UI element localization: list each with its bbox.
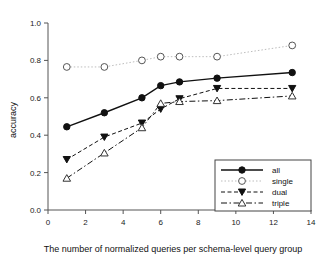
x-tick-label-1: 2	[83, 218, 88, 227]
data-point-single-0	[63, 64, 70, 71]
line-chart: 0.00.20.40.60.81.0 02468101214 allsingle…	[0, 0, 334, 261]
data-point-dual-6	[289, 85, 296, 91]
data-point-single-4	[176, 53, 183, 60]
x-tick-label-4: 8	[196, 218, 201, 227]
x-axis-ticks: 02468101214	[46, 210, 316, 227]
series-single	[63, 42, 295, 70]
data-point-all-5	[214, 75, 220, 81]
x-tick-label-7: 14	[307, 218, 316, 227]
y-tick-label-3: 0.6	[30, 94, 42, 103]
data-point-all-3	[158, 82, 164, 88]
data-point-single-6	[289, 42, 296, 49]
y-tick-label-0: 0.0	[30, 206, 42, 215]
x-tick-label-6: 12	[269, 218, 278, 227]
data-point-triple-1	[101, 149, 109, 156]
data-point-all-2	[139, 95, 145, 101]
y-tick-label-5: 1.0	[30, 19, 42, 28]
legend-marker-single	[239, 178, 246, 185]
legend-label-all: all	[272, 166, 280, 175]
data-point-dual-0	[63, 157, 70, 163]
data-point-triple-3	[157, 100, 165, 107]
y-tick-label-2: 0.4	[30, 131, 42, 140]
data-point-triple-2	[138, 124, 146, 131]
x-tick-label-0: 0	[46, 218, 51, 227]
x-axis-title: The number of normalized queries per sch…	[44, 244, 303, 254]
data-point-single-3	[157, 53, 164, 60]
x-tick-label-2: 4	[121, 218, 126, 227]
y-tick-label-1: 0.2	[30, 169, 42, 178]
chart-legend: allsingledualtriple	[215, 160, 311, 211]
legend-label-dual: dual	[272, 188, 287, 197]
data-point-all-6	[289, 69, 295, 75]
legend-label-triple: triple	[272, 199, 290, 208]
chart-figure: 0.00.20.40.60.81.0 02468101214 allsingle…	[0, 0, 334, 261]
data-point-all-0	[64, 124, 70, 130]
data-point-all-1	[101, 110, 107, 116]
legend-label-single: single	[272, 177, 293, 186]
data-point-dual-1	[101, 134, 108, 140]
data-point-triple-0	[63, 175, 71, 182]
y-axis-title: accuracy	[8, 101, 18, 138]
legend-marker-all	[239, 167, 245, 173]
y-tick-label-4: 0.8	[30, 56, 42, 65]
data-point-all-4	[176, 79, 182, 85]
y-axis-ticks: 0.00.20.40.60.81.0	[30, 19, 48, 215]
x-tick-label-3: 6	[158, 218, 163, 227]
x-tick-label-5: 10	[231, 218, 240, 227]
data-point-single-2	[139, 57, 146, 64]
data-point-single-5	[214, 53, 221, 60]
data-point-single-1	[101, 64, 108, 71]
